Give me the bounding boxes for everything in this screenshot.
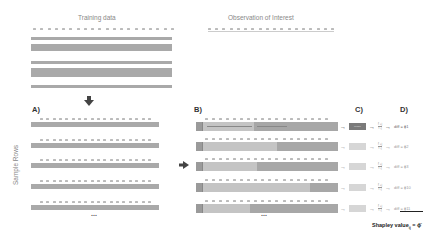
training-row [31, 61, 172, 64]
observation-row [208, 27, 334, 32]
model-box [349, 184, 366, 191]
average-line [400, 211, 423, 212]
label-a: A) [32, 105, 40, 114]
observation-title: Observation of Interest [228, 14, 294, 21]
model-box [349, 205, 366, 212]
diff-formula: diff = ϕ3 [394, 164, 408, 169]
training-data-title: Training data [78, 14, 116, 21]
ellipsis-a: ... [91, 210, 97, 217]
training-row [31, 37, 172, 40]
column-ticks [33, 27, 174, 30]
prediction-fraction: f̂ +jf̂ -j [378, 123, 382, 130]
hybrid-row [196, 157, 338, 171]
diff-formula: diff = ϕ2 [394, 144, 408, 149]
model-output-row: → → f̂ +jf̂ -j → diff = ϕ2 [340, 143, 408, 150]
model-box [349, 143, 366, 150]
ellipsis-b: ... [261, 210, 267, 217]
model-box: Model [349, 123, 366, 130]
model-output-row: → → f̂ +jf̂ -j → diff = ϕ3 [340, 163, 408, 170]
diff-formula: diff = ϕ1 [394, 124, 408, 129]
prediction-fraction: f̂ +jf̂ -j [378, 143, 382, 150]
label-c: C) [355, 105, 363, 114]
training-row [31, 44, 172, 51]
training-data-table [33, 27, 174, 30]
hybrid-row [196, 178, 338, 192]
prediction-fraction: f̂ +jf̂ -j [378, 184, 382, 191]
model-box [349, 163, 366, 170]
prediction-fraction: f̂ +jf̂ -j [378, 205, 382, 212]
model-output-row: → → f̂ +jf̂ -j → diff = ϕ10 [340, 184, 411, 191]
hybrid-row [196, 199, 338, 213]
label-d: D) [400, 105, 408, 114]
model-output-row: → Model → f̂ +jf̂ -j → diff = ϕ1 [340, 123, 408, 130]
label-b: B) [194, 105, 202, 114]
training-row [31, 85, 172, 88]
hybrid-row [196, 117, 338, 131]
sample-rows-label: Sample Rows [12, 145, 19, 185]
diff-formula: diff = ϕ10 [394, 185, 411, 190]
shapley-value-formula: Shapley valueij = ϕ̄ [372, 222, 421, 230]
training-row [31, 68, 172, 77]
right-arrow-icon [179, 155, 189, 173]
hybrid-row [196, 137, 338, 151]
prediction-fraction: f̂ +jf̂ -j [378, 163, 382, 170]
